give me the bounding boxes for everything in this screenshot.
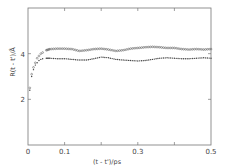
- data-point: [122, 49, 124, 51]
- data-point: [186, 49, 188, 51]
- data-point: [208, 48, 210, 50]
- data-point: [88, 59, 89, 60]
- data-point: [84, 59, 85, 60]
- data-point: [194, 58, 195, 59]
- data-point: [141, 47, 143, 49]
- data-point: [153, 46, 155, 48]
- data-point: [101, 56, 102, 57]
- data-point: [135, 60, 136, 61]
- data-point: [40, 53, 42, 55]
- data-point: [29, 90, 30, 91]
- data-point: [121, 59, 122, 60]
- data-point: [144, 60, 145, 61]
- data-point: [117, 59, 118, 60]
- data-point: [29, 87, 31, 89]
- data-point: [124, 59, 125, 60]
- data-point: [203, 57, 204, 58]
- data-point: [77, 59, 78, 60]
- data-point: [131, 48, 133, 50]
- data-point: [38, 55, 40, 57]
- data-point: [120, 50, 122, 52]
- data-point: [199, 48, 201, 50]
- data-point: [143, 60, 144, 61]
- data-point: [119, 59, 120, 60]
- axis-ticks: [28, 8, 211, 145]
- data-point: [58, 58, 59, 59]
- data-point: [179, 58, 180, 59]
- data-point: [108, 49, 110, 51]
- data-point: [197, 48, 199, 50]
- data-point: [100, 48, 102, 50]
- data-point: [66, 48, 68, 50]
- data-point: [95, 58, 96, 59]
- data-point: [176, 58, 177, 59]
- data-point: [139, 47, 141, 49]
- data-point: [185, 58, 186, 59]
- data-point: [117, 50, 119, 52]
- data-point: [33, 69, 34, 70]
- chart: 0 0.1 0.3 0.5 2 4 (t - t')/ps R(t - t')/…: [0, 0, 225, 168]
- data-series: [29, 46, 212, 91]
- data-point: [42, 52, 44, 54]
- data-point: [188, 49, 190, 51]
- data-point: [53, 48, 55, 50]
- data-point: [137, 47, 139, 49]
- data-point: [78, 50, 80, 52]
- data-point: [86, 59, 87, 60]
- data-point: [165, 57, 166, 58]
- data-point: [99, 57, 100, 58]
- data-point: [84, 50, 86, 52]
- data-point: [42, 58, 43, 59]
- data-point: [126, 60, 127, 61]
- data-point: [199, 57, 200, 58]
- data-point: [73, 49, 75, 51]
- data-point: [86, 49, 88, 51]
- data-point: [183, 58, 184, 59]
- data-point: [177, 58, 178, 59]
- plot-frame: [28, 8, 211, 145]
- y-axis-label: R(t - t')/Å: [8, 47, 17, 77]
- data-point: [89, 49, 91, 51]
- data-point: [161, 47, 163, 49]
- data-point: [128, 48, 130, 50]
- data-point: [97, 48, 99, 50]
- data-point: [97, 57, 98, 58]
- data-point: [109, 49, 111, 51]
- data-point: [91, 48, 93, 50]
- x-tick-0.1: 0.1: [59, 148, 70, 156]
- data-point: [148, 46, 150, 48]
- data-point: [75, 49, 77, 51]
- data-point: [168, 57, 169, 58]
- data-point: [113, 58, 114, 59]
- data-point: [166, 57, 167, 58]
- data-point: [34, 62, 36, 64]
- data-point: [144, 46, 146, 48]
- data-point: [135, 47, 137, 49]
- data-point: [188, 58, 189, 59]
- data-point: [181, 48, 183, 50]
- x-axis-label: (t - t')/ps: [93, 158, 122, 166]
- data-point: [73, 59, 74, 60]
- data-point: [40, 59, 41, 60]
- data-point: [181, 58, 182, 59]
- data-point: [62, 58, 63, 59]
- data-point: [93, 48, 95, 50]
- data-point: [172, 47, 174, 49]
- data-point: [201, 57, 202, 58]
- data-point: [170, 57, 171, 58]
- data-point: [69, 48, 71, 50]
- x-tick-0.5: 0.5: [205, 148, 216, 156]
- data-point: [179, 48, 181, 50]
- x-tick-0: 0: [26, 148, 30, 156]
- data-point: [36, 62, 37, 63]
- data-point: [113, 50, 115, 52]
- data-point: [66, 58, 67, 59]
- data-point: [152, 59, 153, 60]
- data-point: [82, 50, 84, 52]
- data-point: [174, 58, 175, 59]
- data-point: [64, 48, 66, 50]
- data-point: [38, 60, 39, 61]
- data-point: [110, 57, 111, 58]
- data-point: [172, 57, 173, 58]
- data-point: [49, 58, 50, 59]
